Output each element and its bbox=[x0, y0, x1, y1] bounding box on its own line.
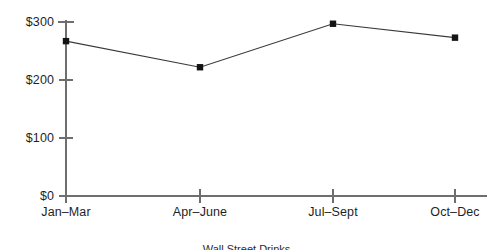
line-chart: $300 $200 $100 $0 Jan–Mar Apr–June Jul–S… bbox=[0, 0, 493, 250]
data-point-marker bbox=[63, 38, 69, 44]
y-tick-label-0: $0 bbox=[4, 189, 54, 203]
axes bbox=[66, 20, 487, 196]
data-point-marker bbox=[452, 34, 458, 40]
data-point-marker bbox=[197, 64, 203, 70]
x-tick-label-jan-mar: Jan–Mar bbox=[41, 205, 90, 219]
chart-caption: Wall Street Drinks bbox=[0, 242, 493, 250]
x-tick-label-jul-sept: Jul–Sept bbox=[308, 205, 357, 219]
data-series-markers bbox=[63, 21, 458, 71]
y-tick-label-100: $100 bbox=[4, 131, 54, 145]
data-series-line bbox=[66, 24, 455, 68]
data-point-marker bbox=[330, 21, 336, 27]
x-tick-label-apr-june: Apr–June bbox=[173, 205, 227, 219]
y-tick-label-200: $200 bbox=[4, 73, 54, 87]
x-tick-label-oct-dec: Oct–Dec bbox=[430, 205, 479, 219]
y-tick-label-300: $300 bbox=[4, 15, 54, 29]
